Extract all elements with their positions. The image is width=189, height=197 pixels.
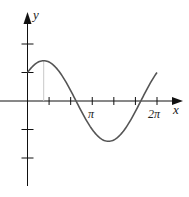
function-plot: y x π 2π [0,0,189,197]
x-axis-label: x [172,102,179,117]
x-tick-label-pi: π [88,107,95,121]
y-axis-label: y [31,7,39,22]
x-tick-label-2pi: 2π [148,107,161,121]
y-axis-arrow-icon [24,12,32,24]
y-axis [24,12,32,186]
